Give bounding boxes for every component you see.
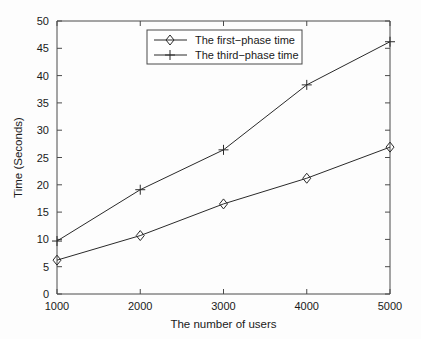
x-tick-label: 2000 [128, 300, 152, 312]
x-tick-label: 3000 [211, 300, 235, 312]
x-tick-label: 4000 [295, 300, 319, 312]
line-chart: 0510152025303540455010002000300040005000… [0, 0, 421, 339]
legend-label-1: The third−phase time [195, 49, 299, 61]
data-point-1-1 [135, 185, 145, 195]
y-tick-label: 30 [37, 124, 49, 136]
y-tick-label: 10 [37, 233, 49, 245]
x-tick-label: 5000 [378, 300, 402, 312]
series-line-1 [57, 42, 390, 241]
y-tick-label: 0 [43, 288, 49, 300]
data-point-1-2 [219, 145, 229, 155]
y-tick-label: 15 [37, 206, 49, 218]
figure-canvas: 0510152025303540455010002000300040005000… [0, 0, 421, 339]
y-tick-label: 20 [37, 179, 49, 191]
y-tick-label: 45 [37, 42, 49, 54]
series-line-0 [57, 147, 390, 260]
data-point-1-4 [385, 37, 395, 47]
x-tick-label: 1000 [45, 300, 69, 312]
y-tick-label: 5 [43, 261, 49, 273]
x-axis-title: The number of users [170, 318, 276, 330]
legend-label-0: The first−phase time [195, 34, 295, 46]
y-tick-label: 50 [37, 15, 49, 27]
data-point-1-3 [302, 80, 312, 90]
y-tick-label: 40 [37, 70, 49, 82]
data-point-1-0 [52, 236, 62, 246]
y-tick-label: 35 [37, 97, 49, 109]
y-axis-title: Time (Seconds) [12, 117, 24, 198]
y-tick-label: 25 [37, 152, 49, 164]
